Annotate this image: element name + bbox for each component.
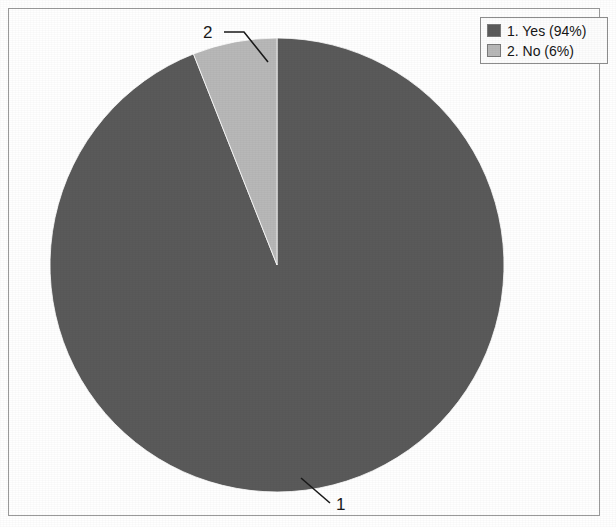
chart-legend: 1. Yes (94%) 2. No (6%) [480,17,608,64]
pie-slices [50,38,504,492]
legend-label-no: 2. No (6%) [507,44,574,58]
legend-item-no[interactable]: 2. No (6%) [487,42,602,60]
slice-callout-label-2: 2 [203,24,212,41]
legend-swatch-yes [487,24,501,37]
legend-item-yes[interactable]: 1. Yes (94%) [487,22,602,40]
legend-swatch-no [487,44,501,57]
slice-callout-label-1: 1 [336,496,345,513]
pie-graphic [0,0,616,527]
pie-chart-figure: 2 1 1. Yes (94%) 2. No (6%) [0,0,616,527]
legend-label-yes: 1. Yes (94%) [507,24,586,38]
